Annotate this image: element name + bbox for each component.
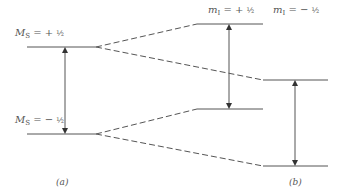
label-mi-minus-half: mI = − ½	[273, 5, 319, 17]
label-frac: ½	[56, 116, 64, 125]
connector-lower-plus	[96, 109, 197, 134]
label-frac: ½	[56, 29, 64, 38]
connector-upper-minus	[96, 47, 263, 80]
connector-upper-plus	[96, 24, 197, 47]
label-eq: = −	[288, 4, 308, 15]
label-sub: S	[25, 32, 30, 40]
label-sub: I	[217, 9, 220, 17]
panel-label-a: (a)	[56, 177, 68, 187]
label-frac: ½	[247, 6, 255, 15]
label-sub: S	[25, 119, 30, 127]
label-eq: = +	[33, 27, 53, 38]
label-sub: I	[282, 9, 285, 17]
label-mi-plus-half: mI = + ½	[208, 5, 254, 17]
connector-lower-minus	[96, 134, 263, 166]
label-eq: = −	[33, 114, 53, 125]
label-symbol: M	[15, 114, 25, 125]
label-symbol: M	[15, 27, 25, 38]
label-frac: ½	[312, 6, 320, 15]
label-ms-plus-half: MS = + ½	[15, 28, 64, 40]
label-eq: = +	[223, 4, 243, 15]
label-ms-minus-half: MS = − ½	[15, 115, 64, 127]
panel-label-b: (b)	[289, 177, 302, 187]
